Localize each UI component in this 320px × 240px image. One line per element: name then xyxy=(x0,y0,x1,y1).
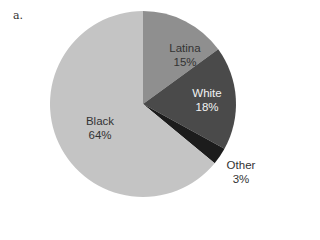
label-value: 64% xyxy=(73,128,127,142)
slice-label-white: White 18% xyxy=(180,86,234,114)
slice-label-black: Black 64% xyxy=(73,114,127,142)
label-value: 18% xyxy=(180,100,234,114)
label-name: White xyxy=(180,86,234,100)
label-name: Black xyxy=(73,114,127,128)
label-value: 3% xyxy=(218,172,264,186)
slice-label-latina: Latina 15% xyxy=(158,41,212,69)
label-name: Other xyxy=(218,158,264,172)
slice-label-other: Other 3% xyxy=(218,158,264,186)
label-value: 15% xyxy=(158,55,212,69)
label-name: Latina xyxy=(158,41,212,55)
